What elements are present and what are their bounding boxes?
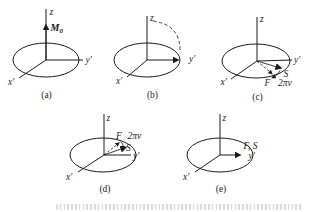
cutoff-caption-remnant bbox=[56, 204, 302, 210]
x-prime-axis bbox=[195, 155, 220, 172]
figure-page: z y′ x′ M0 (a) z y′ x′ (b) z bbox=[0, 0, 313, 212]
caption-d: (d) bbox=[99, 184, 110, 195]
m0-label-subscript: 0 bbox=[59, 27, 63, 35]
tipping-arc-dashed bbox=[153, 21, 180, 52]
caption-a: (a) bbox=[41, 90, 52, 101]
subfigure-c: z y′ x′ S F 2πν (c) bbox=[220, 14, 302, 103]
fs-vector-label: F, S bbox=[243, 141, 258, 151]
x-prime-axis-label: x′ bbox=[7, 77, 15, 87]
rotation-arc-arrow bbox=[121, 142, 124, 148]
y-prime-axis-label: y′ bbox=[293, 55, 301, 65]
z-axis-label: z bbox=[49, 7, 54, 17]
x-prime-axis-label: x′ bbox=[220, 77, 228, 87]
z-axis-label: z bbox=[106, 113, 111, 123]
y-prime-axis-label: y′ bbox=[85, 55, 93, 65]
y-prime-axis-label: y′ bbox=[132, 151, 140, 161]
y-prime-axis-label: y′ bbox=[248, 151, 256, 161]
x-prime-axis bbox=[231, 61, 257, 79]
frequency-label: 2πν bbox=[278, 78, 293, 88]
z-axis-label: z bbox=[149, 13, 154, 23]
caption-e: (e) bbox=[216, 184, 227, 195]
xy-plane-ellipse bbox=[222, 44, 290, 78]
subfigure-a: z y′ x′ M0 (a) bbox=[7, 7, 93, 101]
s-vector-arrow bbox=[257, 61, 277, 67]
s-vector-arrow bbox=[104, 149, 122, 155]
z-axis-label: z bbox=[222, 113, 227, 123]
y-prime-axis bbox=[257, 60, 292, 61]
s-vector-label: S bbox=[284, 69, 289, 79]
f-vector-arrow-dashed bbox=[104, 145, 117, 156]
m0-vector-label: M0 bbox=[50, 22, 64, 35]
nmr-rotating-frame-figure: z y′ x′ M0 (a) z y′ x′ (b) z bbox=[0, 0, 313, 212]
z-axis-label: z bbox=[259, 14, 264, 24]
caption-c: (c) bbox=[252, 92, 263, 103]
y-prime-axis-label: y′ bbox=[188, 54, 196, 64]
x-prime-axis-label: x′ bbox=[115, 76, 123, 86]
x-prime-axis-label: x′ bbox=[182, 172, 190, 182]
f-vector-label: F bbox=[264, 78, 271, 88]
s-vector-label: S bbox=[126, 143, 131, 153]
subfigure-d: z y′ x′ F 2πν S (d) bbox=[65, 113, 142, 195]
f-vector-label: F bbox=[115, 131, 122, 141]
x-prime-axis-label: x′ bbox=[65, 172, 73, 182]
caption-b: (b) bbox=[147, 90, 158, 101]
subfigure-e: z F, S y′ x′ (e) bbox=[182, 113, 258, 195]
x-prime-axis bbox=[78, 155, 104, 172]
subfigure-b: z y′ x′ (b) bbox=[114, 13, 196, 101]
x-prime-axis bbox=[127, 60, 147, 77]
frequency-label: 2πν bbox=[128, 131, 143, 141]
